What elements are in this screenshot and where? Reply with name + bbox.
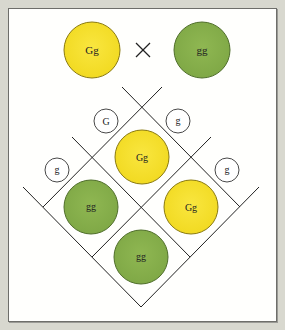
offspring-left: gg xyxy=(64,180,118,234)
offspring-bottom: gg xyxy=(114,230,168,284)
svg-text:G: G xyxy=(102,116,109,127)
punnett-diagram: Gg gg G g g g Gg gg xyxy=(0,0,285,330)
svg-text:g: g xyxy=(225,164,230,175)
gamete-parent1-1: g xyxy=(166,109,190,133)
svg-text:g: g xyxy=(176,115,181,126)
gamete-parent1-0: G xyxy=(94,109,118,133)
svg-text:g: g xyxy=(55,164,60,175)
offspring-right: Gg xyxy=(164,180,218,234)
parent-left-genotype: Gg xyxy=(85,44,99,56)
svg-text:Gg: Gg xyxy=(136,152,148,163)
parent-right: gg xyxy=(174,22,230,78)
parent-right-genotype: gg xyxy=(197,44,209,56)
offspring-top: Gg xyxy=(115,130,169,184)
cross-icon xyxy=(136,43,150,57)
gamete-parent2-1: g xyxy=(215,158,239,182)
gamete-parent2-0: g xyxy=(45,158,69,182)
svg-text:gg: gg xyxy=(86,201,96,212)
parent-left: Gg xyxy=(64,22,120,78)
svg-text:gg: gg xyxy=(136,251,146,262)
svg-text:Gg: Gg xyxy=(185,202,197,213)
